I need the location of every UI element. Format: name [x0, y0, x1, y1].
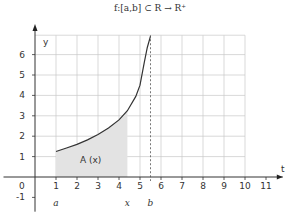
area-label: A (x): [80, 155, 101, 165]
svg-text:2: 2: [74, 181, 80, 191]
svg-text:4: 4: [19, 90, 25, 100]
svg-text:11: 11: [260, 181, 271, 191]
svg-text:1: 1: [53, 181, 59, 191]
svg-text:0: 0: [19, 181, 25, 191]
svg-text:7: 7: [179, 181, 185, 191]
tick-labels: 01234567891011-1123456: [16, 50, 272, 203]
svg-text:-1: -1: [16, 192, 25, 202]
svg-text:1: 1: [19, 152, 25, 162]
svg-text:4: 4: [116, 181, 122, 191]
svg-text:10: 10: [239, 181, 251, 191]
area-under-curve: [56, 111, 127, 177]
b-label: b: [148, 198, 154, 208]
t-axis-label: t: [281, 164, 285, 174]
svg-text:8: 8: [200, 181, 206, 191]
svg-text:6: 6: [158, 181, 164, 191]
svg-text:3: 3: [19, 111, 25, 121]
svg-text:5: 5: [19, 70, 25, 80]
y-axis-label: y: [43, 37, 49, 47]
svg-text:2: 2: [19, 131, 25, 141]
svg-text:6: 6: [19, 50, 25, 60]
a-label: a: [53, 198, 58, 208]
svg-text:5: 5: [137, 181, 143, 191]
svg-text:3: 3: [95, 181, 101, 191]
svg-text:9: 9: [221, 181, 227, 191]
function-area-chart: 01234567891011-1123456 y t A (x) a x b: [0, 0, 300, 214]
x-label: x: [125, 198, 130, 208]
